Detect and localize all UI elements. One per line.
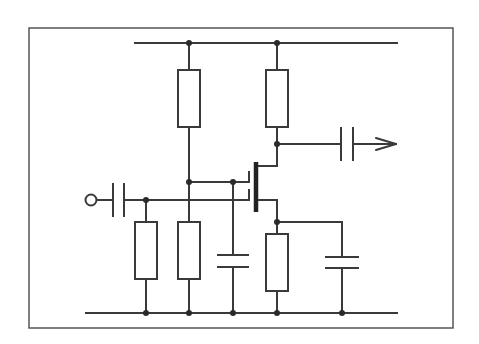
output-capacitor-c2 <box>277 128 396 160</box>
resistor-r5 <box>266 234 288 313</box>
resistor-r4 <box>178 222 200 313</box>
dual-gate-mosfet-q1 <box>249 162 277 234</box>
capacitor-c4 <box>277 222 358 313</box>
circuit-diagram: Dual-gate MOSFET amplifier stage <box>0 0 479 344</box>
capacitor-c3 <box>218 182 248 313</box>
junction-dots <box>143 40 345 316</box>
input-terminal-icon <box>86 195 97 206</box>
frame-border <box>29 28 453 328</box>
resistor-r1 <box>178 43 200 222</box>
resistor-r3 <box>135 200 157 313</box>
schematic-svg <box>0 0 479 344</box>
input-capacitor-c1 <box>97 184 124 216</box>
resistor-r2 <box>259 43 288 166</box>
